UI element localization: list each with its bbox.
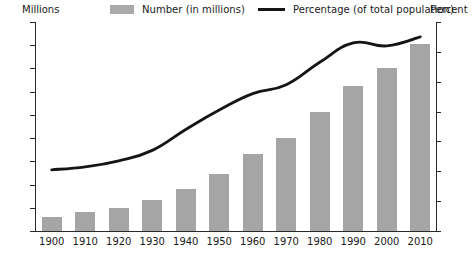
line-series-percentage — [35, 22, 437, 232]
x-axis-tick-label: 1980 — [303, 236, 337, 248]
x-axis-tick-label: 1970 — [270, 236, 304, 248]
percentage-line-path — [52, 37, 421, 170]
x-axis-tick-label: 1900 — [35, 236, 69, 248]
x-axis-tick-label: 1930 — [136, 236, 170, 248]
right-axis-caption: Percent — [430, 4, 468, 15]
x-axis-tick-label: 1910 — [69, 236, 103, 248]
legend-label-number: Number (in millions) — [142, 4, 245, 15]
x-axis-category-labels: 1900191019201930194019501960197019801990… — [35, 236, 437, 252]
x-axis-tick-label: 1940 — [169, 236, 203, 248]
x-axis-tick-label: 2000 — [370, 236, 404, 248]
chart-legend: Number (in millions) Percentage (of tota… — [0, 0, 476, 18]
legend-swatch-line-icon — [258, 8, 285, 11]
legend-item-percentage: Percentage (of total population) — [258, 0, 454, 18]
legend-swatch-bar-icon — [110, 5, 134, 14]
x-axis-tick-label: 2010 — [404, 236, 438, 248]
left-axis-caption: Millions — [22, 4, 59, 15]
x-axis-tick-label: 1960 — [236, 236, 270, 248]
x-axis-tick-label: 1920 — [102, 236, 136, 248]
x-axis-tick-label: 1990 — [337, 236, 371, 248]
plot-area: 051015202530354045 02468101214 — [35, 22, 437, 232]
legend-item-number: Number (in millions) — [110, 0, 245, 18]
chart-figure: Number (in millions) Percentage (of tota… — [0, 0, 476, 265]
x-axis-tick-label: 1950 — [203, 236, 237, 248]
